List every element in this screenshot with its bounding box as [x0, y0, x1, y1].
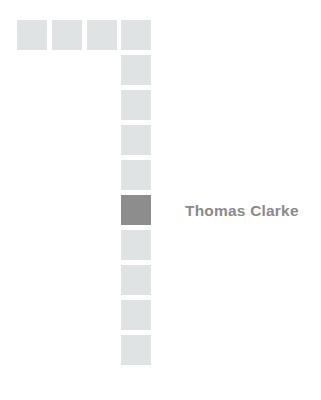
- cell-r9-c3: [121, 335, 151, 365]
- cell-r8-c3: [121, 300, 151, 330]
- cell-r1-c3: [121, 55, 151, 85]
- cell-r2-c3: [121, 90, 151, 120]
- cell-r0-c1: [52, 20, 82, 50]
- cell-r3-c3: [121, 125, 151, 155]
- cell-r5-c3: [121, 195, 151, 225]
- person-name-label: Thomas Clarke: [185, 202, 299, 220]
- cell-r0-c2: [87, 20, 117, 50]
- cell-r0-c3: [121, 20, 151, 50]
- figure-canvas: Thomas Clarke: [0, 0, 321, 400]
- cell-r4-c3: [121, 160, 151, 190]
- cell-r6-c3: [121, 230, 151, 260]
- cell-r0-c0: [17, 20, 47, 50]
- cell-r7-c3: [121, 265, 151, 295]
